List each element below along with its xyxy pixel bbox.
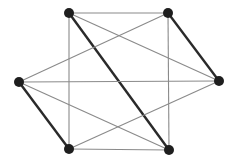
edge-tr-r: [168, 13, 219, 81]
graph-diagram: [0, 0, 234, 162]
edge-l-bl: [19, 82, 69, 149]
node-r: [214, 76, 224, 86]
edge-l-r: [19, 81, 219, 82]
node-tr: [163, 8, 173, 18]
edges-layer: [19, 13, 219, 150]
node-l: [14, 77, 24, 87]
edge-bl-br: [69, 149, 169, 150]
node-bl: [64, 144, 74, 154]
edge-tl-r: [69, 13, 219, 81]
edge-l-br: [19, 82, 169, 150]
node-br: [164, 145, 174, 155]
node-tl: [64, 8, 74, 18]
